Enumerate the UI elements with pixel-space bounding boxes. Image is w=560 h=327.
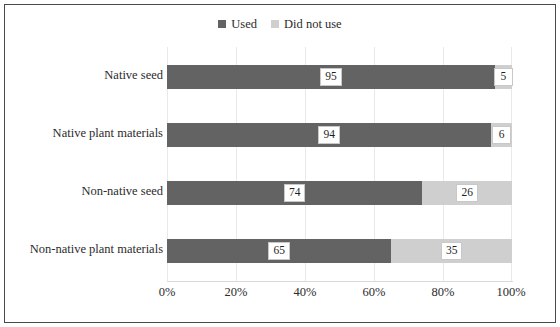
y-axis-label-1: Native plant materials [3, 127, 163, 140]
bar-segment-did-not-use[interactable]: 26 [422, 181, 512, 205]
bar-segment-did-not-use[interactable]: 5 [495, 65, 512, 89]
y-axis-labels: Native seed Native plant materials Non-n… [0, 47, 163, 281]
y-axis-label-3: Non-native plant materials [3, 243, 163, 256]
x-axis-tick-60: 60% [363, 286, 386, 299]
bar-value-label: 94 [318, 126, 340, 145]
bar-value-label: 6 [492, 126, 511, 145]
bar-segment-used[interactable]: 65 [167, 239, 391, 263]
bar-value-label: 65 [268, 242, 290, 261]
y-axis-label-0: Native seed [3, 69, 163, 82]
bar-value-label: 26 [456, 184, 478, 203]
x-axis-tick-0: 0% [159, 286, 176, 299]
x-axis-tick-100: 100% [496, 286, 525, 299]
x-axis-tick-20: 20% [225, 286, 248, 299]
bar-segment-used[interactable]: 95 [167, 65, 495, 89]
bar-value-label: 5 [494, 68, 513, 87]
x-axis-labels: 0% 20% 40% 60% 80% 100% [167, 286, 512, 306]
bar-segment-did-not-use[interactable]: 6 [491, 123, 512, 147]
bar-row: 74 26 [167, 181, 512, 205]
x-axis-tick-40: 40% [294, 286, 317, 299]
bar-row: 94 6 [167, 123, 512, 147]
bar-row: 95 5 [167, 65, 512, 89]
plot-area: 95 5 94 6 74 26 65 [167, 47, 512, 281]
bar-value-label: 74 [284, 184, 306, 203]
x-axis-line [167, 281, 513, 282]
y-axis-label-2: Non-native seed [3, 185, 163, 198]
bar-value-label: 95 [320, 68, 342, 87]
bar-segment-used[interactable]: 94 [167, 123, 491, 147]
bar-row: 65 35 [167, 239, 512, 263]
bar-segment-used[interactable]: 74 [167, 181, 422, 205]
bar-value-label: 35 [441, 242, 463, 261]
bar-segment-did-not-use[interactable]: 35 [391, 239, 512, 263]
chart-figure: Used Did not use Native seed Native plan… [0, 0, 560, 327]
x-axis-tick-80: 80% [432, 286, 455, 299]
